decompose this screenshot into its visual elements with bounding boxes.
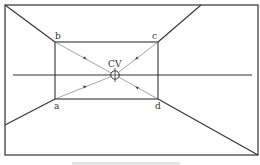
label-a: a <box>54 101 60 111</box>
edge-top-right <box>158 5 201 42</box>
edge-bottom-left <box>5 99 55 125</box>
arrow-icon <box>83 56 87 59</box>
arrow-icon <box>135 86 139 89</box>
edge-bottom-right <box>158 99 258 155</box>
label-d: d <box>155 101 161 111</box>
outer-frame <box>5 5 258 155</box>
label-cv: CV <box>108 59 122 69</box>
arrow-icon <box>135 56 139 59</box>
edge-top-left <box>5 5 55 42</box>
arrow-icon <box>83 86 87 89</box>
label-c: c <box>152 31 157 41</box>
caption-strip <box>72 162 180 165</box>
perspective-diagram: b c a d CV <box>0 0 260 165</box>
center-of-vision-icon <box>110 68 120 82</box>
label-b: b <box>55 31 61 41</box>
